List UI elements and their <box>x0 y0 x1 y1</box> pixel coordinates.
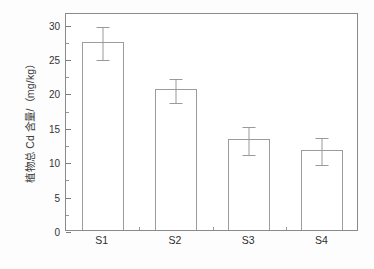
x-axis-label-s4: S4 <box>315 234 328 246</box>
y-tick-mark <box>66 129 71 130</box>
y-tick-label: 25 <box>49 55 60 66</box>
y-tick-label: 10 <box>49 158 60 169</box>
error-bar-cap-upper <box>96 27 109 28</box>
error-bar-line-s4 <box>322 138 323 164</box>
y-tick-mark-minor <box>66 215 69 216</box>
x-tick-mark-minor <box>286 227 287 230</box>
bar-s1 <box>82 42 124 230</box>
bar-s2 <box>155 89 197 230</box>
y-tick-label: 15 <box>49 123 60 134</box>
y-tick-mark <box>66 94 71 95</box>
error-bar-cap-lower <box>169 103 182 104</box>
y-tick-mark <box>66 232 71 233</box>
y-axis-label-container: 植物总 Cd 含量/（mg/kg） <box>18 0 40 240</box>
x-tick-mark-minor <box>213 227 214 230</box>
y-tick-mark-minor <box>66 77 69 78</box>
y-tick-label: 0 <box>54 227 60 238</box>
y-axis-label: 植物总 Cd 含量/（mg/kg） <box>22 58 37 182</box>
error-bar-line-s2 <box>175 79 176 104</box>
plot-area: 051015202530 <box>65 13 358 231</box>
y-tick-mark-minor <box>66 146 69 147</box>
x-axis-label-s2: S2 <box>168 234 181 246</box>
y-tick-label: 5 <box>54 192 60 203</box>
y-tick-label: 20 <box>49 89 60 100</box>
y-tick-mark <box>66 60 71 61</box>
error-bar-cap-upper <box>169 79 182 80</box>
x-axis-label-s3: S3 <box>242 234 255 246</box>
y-tick-label: 30 <box>49 20 60 31</box>
bar-chart-figure: 植物总 Cd 含量/（mg/kg） 051015202530 S1S2S3S4 <box>0 0 374 269</box>
error-bar-line-s1 <box>102 27 103 60</box>
y-tick-mark <box>66 163 71 164</box>
error-bar-cap-upper <box>316 138 329 139</box>
y-tick-mark <box>66 198 71 199</box>
y-tick-mark-minor <box>66 180 69 181</box>
error-bar-cap-lower <box>316 165 329 166</box>
error-bar-cap-upper <box>243 127 256 128</box>
y-tick-mark <box>66 26 71 27</box>
error-bar-line-s3 <box>249 127 250 155</box>
error-bar-cap-lower <box>243 155 256 156</box>
error-bar-cap-lower <box>96 60 109 61</box>
y-tick-mark-minor <box>66 112 69 113</box>
y-tick-mark-minor <box>66 43 69 44</box>
x-axis-label-s1: S1 <box>95 234 108 246</box>
x-tick-mark-minor <box>139 227 140 230</box>
